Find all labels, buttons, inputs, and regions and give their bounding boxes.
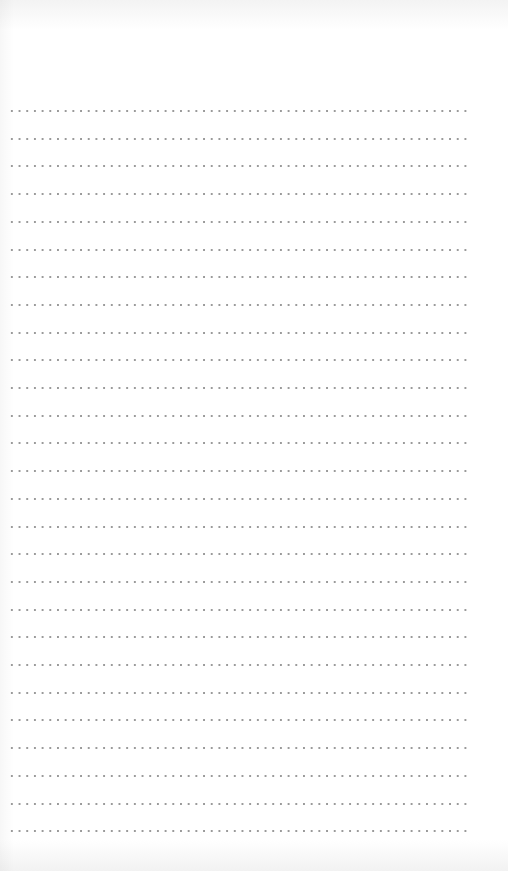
- dotted-rule-line: [8, 553, 469, 555]
- dotted-rule-line: [8, 636, 469, 638]
- dotted-rule-line: [8, 609, 469, 611]
- dotted-rule-line: [8, 803, 469, 805]
- dotted-ruled-lines: [0, 0, 508, 871]
- dotted-rule-line: [8, 526, 469, 528]
- dotted-rule-line: [8, 193, 469, 195]
- dotted-rule-line: [8, 664, 469, 666]
- dotted-rule-line: [8, 165, 469, 167]
- dotted-rule-line: [8, 719, 469, 721]
- dotted-rule-line: [8, 249, 469, 251]
- dotted-rule-line: [8, 470, 469, 472]
- dotted-rule-line: [8, 498, 469, 500]
- dotted-rule-line: [8, 775, 469, 777]
- dotted-rule-line: [8, 387, 469, 389]
- dotted-rule-line: [8, 692, 469, 694]
- dotted-rule-line: [8, 110, 469, 112]
- dotted-rule-line: [8, 332, 469, 334]
- ruled-page: [0, 0, 508, 871]
- dotted-rule-line: [8, 138, 469, 140]
- dotted-rule-line: [8, 442, 469, 444]
- dotted-rule-line: [8, 747, 469, 749]
- dotted-rule-line: [8, 221, 469, 223]
- dotted-rule-line: [8, 581, 469, 583]
- dotted-rule-line: [8, 276, 469, 278]
- dotted-rule-line: [8, 830, 469, 832]
- dotted-rule-line: [8, 415, 469, 417]
- dotted-rule-line: [8, 304, 469, 306]
- dotted-rule-line: [8, 359, 469, 361]
